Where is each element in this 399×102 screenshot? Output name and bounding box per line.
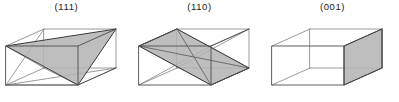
crystal-plane-figure: (111) [0,0,399,102]
cell-label-110: (110) [133,1,266,13]
cube-diagram-110 [133,13,266,102]
cube-diagram-001 [266,13,399,102]
unit-cell-001: (001) [266,0,399,102]
cube-diagram-111 [0,13,133,102]
unit-cell-111: (111) [0,0,133,102]
cell-label-111: (111) [0,1,133,13]
cell-label-001: (001) [266,1,399,13]
unit-cell-110: (110) [133,0,266,102]
